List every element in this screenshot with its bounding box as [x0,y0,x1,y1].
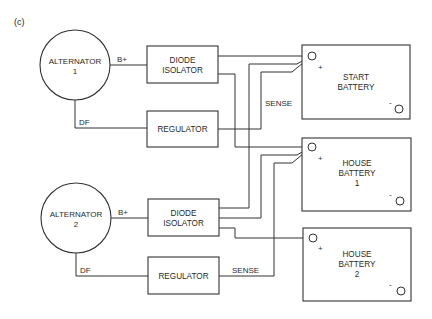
wire-iso2-to-start [219,57,309,208]
charging-system-diagram: (c) ALTERNATOR 1 B+ DF ALTERN [0,0,432,319]
alternator-2-df-label: DF [80,266,91,275]
start-battery-minus: - [389,98,392,107]
start-battery: + START BATTERY - [302,45,410,119]
diode-isolator-2-line2: ISOLATOR [163,219,204,228]
house-battery-2-line3: 2 [355,270,360,279]
alternator-1-df-label: DF [79,118,90,127]
alternator-2-number: 2 [74,220,79,229]
regulator-1: REGULATOR SENSE [147,99,292,147]
diode-isolator-1-line1: DIODE [170,56,196,65]
wire-reg2-sense [219,149,309,276]
alternator-1-label: ALTERNATOR [49,57,102,66]
start-battery-line2: BATTERY [337,83,375,92]
wire-iso2-to-house2 [219,228,309,238]
house-battery-1-line1: HOUSE [342,159,372,168]
house-battery-2-plus: + [318,244,323,253]
house-battery-2-line1: HOUSE [342,250,372,259]
figure-label: (c) [14,17,25,27]
alternator-2: ALTERNATOR 2 B+ DF [41,183,128,275]
alternator-1-bplus-label: B+ [117,55,127,64]
house-battery-1-negative-terminal [396,197,404,205]
house-battery-1: + HOUSE BATTERY 1 - [302,138,411,211]
house-battery-2-positive-terminal [309,234,317,242]
wiring [75,56,309,276]
start-battery-box [302,45,410,119]
regulator-2-label: REGULATOR [158,272,208,281]
house-battery-1-line2: BATTERY [338,169,376,178]
house-battery-2-minus: - [389,280,392,289]
house-battery-2: + HOUSE BATTERY 2 - [303,228,411,301]
start-battery-line1: START [343,73,369,82]
house-battery-1-plus: + [318,154,323,163]
wire-reg1-sense [218,58,309,129]
regulator-1-label: REGULATOR [157,125,207,134]
house-battery-1-positive-terminal [308,143,316,151]
start-battery-plus: + [318,63,323,72]
house-battery-1-minus: - [389,190,392,199]
diode-isolator-1-line2: ISOLATOR [162,66,203,75]
house-battery-1-line3: 1 [355,179,360,188]
start-battery-negative-terminal [395,105,403,113]
regulator-1-sense-label: SENSE [265,99,292,108]
alternator-2-label: ALTERNATOR [50,210,103,219]
alternator-1-number: 1 [73,67,78,76]
start-battery-positive-terminal [308,52,316,60]
alternator-2-bplus-label: B+ [118,208,128,217]
diode-isolator-1: DIODE ISOLATOR [147,46,218,83]
diode-isolator-2-line1: DIODE [171,209,197,218]
diode-isolator-2: DIODE ISOLATOR [148,199,219,236]
regulator-2-sense-label: SENSE [232,266,259,275]
house-battery-2-negative-terminal [397,287,405,295]
alternator-1: ALTERNATOR 1 B+ DF [40,30,127,127]
wire-iso1-to-house1 [218,74,308,147]
house-battery-2-line2: BATTERY [338,260,376,269]
